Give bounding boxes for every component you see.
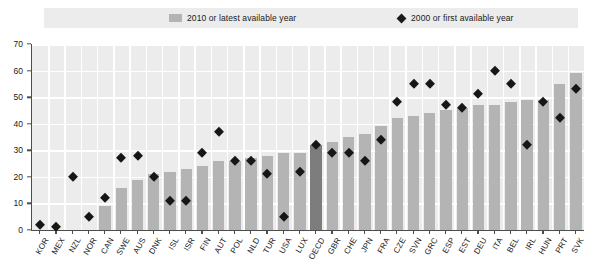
x-tick-mark <box>315 231 316 234</box>
x-tick-mark <box>331 231 332 234</box>
y-tick-label: 70 <box>14 39 23 49</box>
x-tick-mark <box>55 231 56 234</box>
x-tick-label-isr: ISR <box>182 236 197 253</box>
marker-grc <box>425 79 435 89</box>
x-tick-mark <box>250 231 251 234</box>
x-tick-mark <box>39 231 40 234</box>
marker-aus <box>132 150 142 160</box>
x-tick-label-nzl: NZL <box>67 236 83 254</box>
chart-figure: 2010 or latest available year 2000 or fi… <box>0 0 602 267</box>
x-tick-label-che: CHE <box>342 236 359 256</box>
x-tick-mark <box>153 231 154 234</box>
plot-area <box>31 44 584 231</box>
x-tick-label-hun: HUN <box>537 236 554 256</box>
x-tick-label-esp: ESP <box>440 236 456 255</box>
x-tick-mark <box>413 231 414 234</box>
x-tick-label-can: CAN <box>99 236 116 256</box>
x-tick-label-dnk: DNK <box>148 236 165 256</box>
marker-lux <box>295 166 305 176</box>
marker-cze <box>392 97 402 107</box>
x-tick-mark <box>461 231 462 234</box>
marker-nld <box>246 156 256 166</box>
marker-isl <box>165 196 175 206</box>
x-tick-mark <box>283 231 284 234</box>
diamond-swatch-icon <box>397 13 407 23</box>
x-tick-mark <box>445 231 446 234</box>
x-tick-mark <box>510 231 511 234</box>
x-tick-mark <box>396 231 397 234</box>
x-tick-mark <box>380 231 381 234</box>
x-tick-label-aus: AUS <box>131 236 147 255</box>
x-tick-label-bel: BEL <box>506 236 522 254</box>
x-tick-label-irl: IRL <box>523 236 537 252</box>
marker-dnk <box>149 172 159 182</box>
x-tick-label-kor: KOR <box>34 236 51 256</box>
x-tick-mark <box>494 231 495 234</box>
x-tick-label-pol: POL <box>229 236 245 255</box>
x-tick-label-cze: CZE <box>391 236 407 255</box>
marker-usa <box>278 211 288 221</box>
bar-swatch-icon <box>169 14 182 22</box>
marker-irl <box>522 140 532 150</box>
x-tick-label-fin: FIN <box>198 236 213 252</box>
x-tick-label-svk: SVK <box>570 236 586 255</box>
marker-fin <box>197 148 207 158</box>
marker-jpn <box>360 156 370 166</box>
y-tick-label: 50 <box>14 92 23 102</box>
marker-aut <box>213 126 223 136</box>
marker-nzl <box>67 172 77 182</box>
x-tick-label-grc: GRC <box>423 236 440 256</box>
x-tick-mark <box>559 231 560 234</box>
x-tick-mark <box>201 231 202 234</box>
marker-che <box>343 148 353 158</box>
marker-prt <box>554 113 564 123</box>
x-tick-mark <box>266 231 267 234</box>
x-tick-mark <box>542 231 543 234</box>
marker-svk <box>571 84 581 94</box>
marker-kor <box>35 219 45 229</box>
y-axis: 010203040506070 <box>0 44 31 230</box>
x-tick-mark <box>72 231 73 234</box>
x-tick-mark <box>575 231 576 234</box>
x-tick-label-ita: ITA <box>491 236 505 251</box>
legend-label-bars: 2010 or latest available year <box>187 13 296 23</box>
x-tick-mark <box>429 231 430 234</box>
y-tick-label: 0 <box>18 225 23 235</box>
marker-swe <box>116 153 126 163</box>
marker-pol <box>230 156 240 166</box>
x-tick-label-aut: AUT <box>213 236 229 255</box>
marker-oecd <box>311 140 321 150</box>
y-tick-label: 20 <box>14 172 23 182</box>
x-tick-mark <box>104 231 105 234</box>
x-tick-label-mex: MEX <box>50 236 67 256</box>
y-tick-label: 60 <box>14 66 23 76</box>
x-tick-mark <box>218 231 219 234</box>
x-tick-label-svn: SVN <box>407 236 423 255</box>
y-tick-label: 10 <box>14 198 23 208</box>
marker-fra <box>376 134 386 144</box>
marker-series-layer <box>32 44 584 230</box>
x-tick-label-gbr: GBR <box>326 236 343 256</box>
legend-label-diamonds: 2000 or first available year <box>411 13 514 23</box>
x-tick-mark <box>299 231 300 234</box>
x-tick-mark <box>364 231 365 234</box>
legend-item-diamonds: 2000 or first available year <box>396 13 514 23</box>
x-tick-mark <box>185 231 186 234</box>
x-tick-label-est: EST <box>457 236 473 255</box>
x-tick-label-isl: ISL <box>166 236 180 251</box>
marker-svn <box>408 79 418 89</box>
marker-can <box>100 193 110 203</box>
marker-ita <box>489 65 499 75</box>
x-tick-label-lux: LUX <box>294 236 310 255</box>
x-tick-label-deu: DEU <box>472 236 489 256</box>
x-tick-mark <box>88 231 89 234</box>
legend-item-bars: 2010 or latest available year <box>169 13 296 23</box>
y-tick-label: 30 <box>14 145 23 155</box>
x-tick-mark <box>526 231 527 234</box>
y-tick-label: 40 <box>14 119 23 129</box>
marker-deu <box>473 89 483 99</box>
chart-legend: 2010 or latest available year 2000 or fi… <box>44 8 578 28</box>
x-tick-label-nor: NOR <box>82 236 99 256</box>
marker-est <box>457 103 467 113</box>
marker-bel <box>506 79 516 89</box>
